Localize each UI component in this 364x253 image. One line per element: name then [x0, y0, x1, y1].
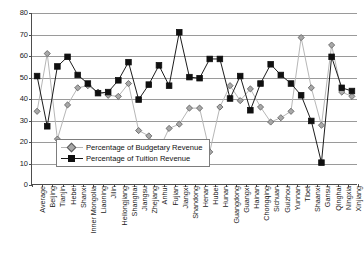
- data-point-budgetary: [186, 105, 192, 111]
- x-axis-label: Anhui: [161, 186, 168, 204]
- chart-container: 01020304050607080 Percentage of Budgetar…: [0, 0, 364, 253]
- x-axis-label: Shaanxi: [314, 186, 321, 212]
- data-point-budgetary: [227, 83, 233, 89]
- x-axis-label: Ningxia: [345, 186, 352, 210]
- data-point-tuition: [237, 73, 243, 79]
- data-point-tuition: [187, 74, 193, 80]
- x-axis-label: Jiangxi: [182, 186, 189, 208]
- y-tick-label: 60: [20, 52, 28, 60]
- data-point-tuition: [349, 88, 355, 94]
- x-axis-label: Gansu: [324, 186, 331, 207]
- data-point-budgetary: [288, 108, 294, 114]
- x-axis-label: Average: [39, 186, 46, 213]
- data-point-tuition: [156, 63, 162, 69]
- x-axis-label: Zhejiang: [151, 186, 158, 214]
- y-tick-label: 50: [20, 74, 28, 82]
- x-axis-label: Shanghai: [131, 186, 138, 216]
- data-point-tuition: [136, 97, 142, 103]
- data-point-tuition: [126, 59, 132, 65]
- data-point-budgetary: [308, 85, 314, 91]
- x-axis-label: Jilin: [110, 186, 117, 198]
- y-tick-label: 20: [20, 138, 28, 146]
- data-point-tuition: [146, 82, 152, 88]
- y-tick-label: 30: [20, 117, 28, 125]
- x-axis-label: Tibet: [304, 186, 311, 202]
- data-point-tuition: [217, 56, 223, 62]
- data-point-budgetary: [329, 42, 335, 48]
- data-point-budgetary: [166, 125, 172, 131]
- data-point-budgetary: [176, 121, 182, 127]
- data-point-tuition: [227, 96, 233, 102]
- y-tick-label: 80: [20, 9, 28, 17]
- x-axis-label: Chongqing: [263, 186, 270, 221]
- data-point-tuition: [34, 73, 40, 79]
- data-point-tuition: [44, 124, 50, 130]
- data-point-budgetary: [217, 104, 223, 110]
- data-point-budgetary: [318, 122, 324, 128]
- legend-label-tuition: Percentage of Tuition Revenue: [86, 155, 190, 163]
- data-point-tuition: [197, 75, 203, 81]
- data-point-budgetary: [268, 119, 274, 125]
- square-marker-icon: [61, 154, 83, 163]
- data-point-tuition: [166, 83, 172, 89]
- legend-item-tuition[interactable]: Percentage of Tuition Revenue: [61, 153, 203, 164]
- data-point-budgetary: [298, 34, 304, 40]
- data-point-budgetary: [257, 104, 263, 110]
- x-axis-label: Guangdong: [233, 186, 240, 224]
- x-axis-label: Xinjiang: [355, 186, 362, 212]
- data-point-budgetary: [34, 108, 40, 114]
- x-axis-label: Henan: [202, 186, 209, 207]
- x-axis-label: Yunnan: [294, 186, 301, 210]
- legend-item-budgetary[interactable]: Percentage of Budgetary Revenue: [61, 142, 203, 153]
- data-point-tuition: [116, 78, 122, 84]
- data-point-tuition: [278, 72, 284, 78]
- data-point-tuition: [288, 81, 294, 87]
- x-axis-label: Beijing: [49, 186, 56, 208]
- data-point-budgetary: [278, 115, 284, 121]
- data-point-budgetary: [44, 51, 50, 57]
- data-point-tuition: [329, 54, 335, 60]
- y-tick-label: 40: [20, 95, 28, 103]
- x-axis-label: Fujian: [172, 186, 179, 206]
- x-axis-label: Qinghai: [335, 186, 342, 211]
- legend-label-budgetary: Percentage of Budgetary Revenue: [86, 144, 203, 152]
- data-point-tuition: [55, 64, 61, 70]
- x-axis-label: Guangxi: [243, 186, 250, 213]
- data-point-tuition: [95, 90, 101, 96]
- data-point-tuition: [65, 54, 71, 60]
- y-tick-label: 10: [20, 160, 28, 168]
- data-point-tuition: [258, 81, 264, 87]
- legend: Percentage of Budgetary Revenue Percenta…: [56, 139, 210, 167]
- data-point-tuition: [309, 118, 315, 124]
- x-axis-label: Hebei: [70, 186, 77, 205]
- x-axis-label: Shanxi: [80, 186, 87, 208]
- x-axis-label: Hubei: [212, 186, 219, 205]
- x-axis-label: Hainan: [253, 186, 260, 209]
- data-point-tuition: [319, 160, 325, 166]
- x-axis-label: Shandong: [192, 186, 199, 219]
- x-axis-label: Guizhou: [284, 186, 291, 213]
- x-axis-label: Tianjin: [59, 186, 66, 207]
- data-point-tuition: [268, 62, 274, 68]
- data-point-tuition: [207, 56, 213, 62]
- x-axis-labels: AverageBeijingTianjinHebeiShanxiInner Mo…: [31, 186, 357, 253]
- y-tick-label: 0: [24, 181, 28, 189]
- x-axis-label: Heilongjiang: [121, 186, 128, 226]
- x-axis-label: Jiangsu: [141, 186, 148, 211]
- data-point-budgetary: [349, 93, 355, 99]
- x-axis-label: Hunan: [222, 186, 229, 207]
- data-point-budgetary: [136, 127, 142, 133]
- data-point-tuition: [85, 81, 91, 87]
- data-point-tuition: [75, 72, 81, 78]
- x-axis-label: Liaoning: [100, 186, 107, 213]
- data-point-budgetary: [64, 102, 70, 108]
- data-point-tuition: [248, 107, 254, 113]
- x-axis-label: Inner Mongolia: [90, 186, 97, 234]
- data-point-budgetary: [196, 105, 202, 111]
- y-tick-label: 70: [20, 31, 28, 39]
- diamond-marker-icon: [61, 143, 83, 152]
- data-point-budgetary: [75, 85, 81, 91]
- data-point-tuition: [176, 29, 182, 35]
- data-point-tuition: [339, 85, 345, 91]
- data-point-tuition: [105, 89, 111, 95]
